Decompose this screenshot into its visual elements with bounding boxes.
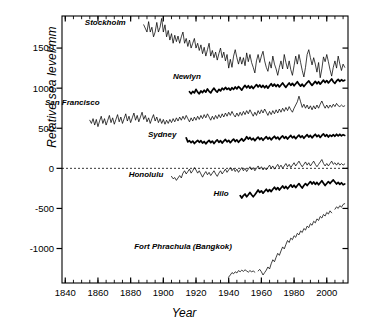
series-line-stockholm xyxy=(144,18,345,77)
y-tick-label: -500 xyxy=(35,203,54,214)
y-axis-title: Relative sea level/mm xyxy=(45,0,59,177)
x-tick-label: 1860 xyxy=(87,287,108,298)
x-tick-label: 2000 xyxy=(316,287,337,298)
series-label-sydney: Sydney xyxy=(148,130,177,139)
x-tick-label: 1920 xyxy=(185,287,206,298)
series-line-fort-phrachula-bangkok xyxy=(229,270,255,277)
x-tick-label: 1980 xyxy=(283,287,304,298)
series-line-hilo xyxy=(240,180,345,198)
x-tick-label: 1840 xyxy=(55,287,76,298)
series-line-sydney xyxy=(186,134,345,144)
series-label-honolulu: Honolulu xyxy=(129,170,164,179)
series-line-fort-phrachula-bangkok xyxy=(258,211,332,275)
x-tick-label: 1900 xyxy=(153,287,174,298)
series-label-newlyn: Newlyn xyxy=(173,72,201,81)
x-tick-label: 1880 xyxy=(120,287,141,298)
series-label-stockholm: Stockholm xyxy=(85,18,126,27)
series-line-san-francisco xyxy=(90,96,345,126)
series-line-honolulu xyxy=(172,160,345,181)
x-tick-label: 1940 xyxy=(218,287,239,298)
series-label-fort-phrachula-bangkok: Fort Phrachula (Bangkok) xyxy=(134,242,232,251)
y-tick-label: -1000 xyxy=(30,243,54,254)
series-label-hilo: Hilo xyxy=(214,189,229,198)
x-tick-label: 1960 xyxy=(251,287,272,298)
x-axis-title: Year xyxy=(0,306,368,320)
sea-level-chart-figure: 1840186018801900192019401960198020001500… xyxy=(0,0,368,336)
series-line-newlyn xyxy=(189,79,344,94)
